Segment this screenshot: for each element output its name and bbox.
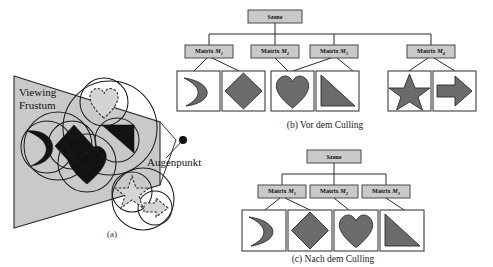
- edge-m4-star-b: [409, 58, 428, 71]
- edge-m4-arrow-b: [434, 58, 455, 71]
- node-szene-c-label: Szene: [326, 153, 341, 160]
- node-matrix-m1-c-label: Matrix M1: [268, 188, 296, 196]
- panel-b: Szene Matrix M1 Matrix M2 Matrix M3 Matr…: [177, 10, 476, 131]
- edge-m3-triangle-c: [386, 198, 404, 210]
- node-matrix-m4-b-label: Matrix M4: [417, 48, 446, 56]
- viewing-frustum-label-line1: Viewing: [19, 86, 57, 98]
- eye-point-label: Augenpunkt: [147, 156, 201, 168]
- node-matrix-m3-c-label: Matrix M3: [372, 188, 401, 196]
- arrow-shape-culled: [144, 198, 168, 217]
- viewing-frustum-label-line2: Frustum: [19, 99, 56, 111]
- panel-a-caption: (a): [107, 229, 117, 239]
- frustum-edge-top: [160, 122, 176, 140]
- edge-m3-triangle-b: [337, 58, 353, 71]
- node-matrix-m2-b-label: Matrix M2: [261, 48, 290, 56]
- edge-m1-crescent-b: [194, 58, 207, 71]
- node-matrix-m1-b-label: Matrix M1: [195, 48, 223, 56]
- edge-m1-diamond-c: [285, 198, 310, 210]
- figure-canvas: Viewing Frustum Augenpunkt (a) Szene Mat…: [0, 0, 493, 267]
- panel-c-caption: (c) Nach dem Culling: [292, 254, 375, 265]
- edge-m1-crescent-c: [265, 198, 280, 210]
- panel-a: Viewing Frustum Augenpunkt (a): [14, 76, 201, 239]
- edge-m2-heart-b: [275, 58, 288, 71]
- node-matrix-m2-c-label: Matrix M2: [320, 188, 349, 196]
- edge-m3-heart-b: [293, 58, 331, 71]
- panel-c: Szene Matrix M1 Matrix M2 Matrix M3 (c: [242, 150, 424, 265]
- panel-b-caption: (b) Vor dem Culling: [287, 120, 364, 131]
- node-szene-b-label: Szene: [267, 13, 282, 20]
- edge-m1-diamond-b: [212, 58, 239, 71]
- node-matrix-m3-b-label: Matrix M3: [320, 48, 349, 56]
- edge-m2-heart-c: [334, 198, 349, 210]
